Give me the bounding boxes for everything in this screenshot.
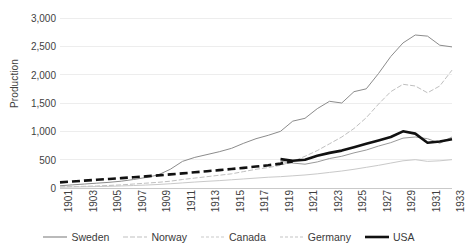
legend-item-norway[interactable]: Norway — [123, 231, 187, 243]
y-axis-tick-label: 2,000 — [18, 69, 56, 80]
legend-swatch-icon — [43, 232, 67, 242]
plot-area — [60, 18, 452, 188]
x-axis-tick-label: 1915 — [236, 190, 246, 212]
y-axis-tick-label: 500 — [18, 154, 56, 165]
x-axis-tick-label: 1931 — [432, 190, 442, 212]
y-axis-tick-label: 0 — [18, 183, 56, 194]
legend-swatch-icon — [365, 232, 389, 242]
x-axis-tick-label: 1921 — [309, 190, 319, 212]
x-axis-tick-label: 1917 — [260, 190, 270, 212]
y-axis-tick-label: 1,000 — [18, 126, 56, 137]
x-axis-tick-label: 1901 — [64, 190, 74, 212]
legend-item-usa[interactable]: USA — [365, 231, 415, 243]
y-axis-tick-labels: 05001,0001,5002,0002,5003,000 — [18, 0, 56, 250]
legend-item-canada[interactable]: Canada — [201, 231, 266, 243]
x-axis-tick-label: 1923 — [334, 190, 344, 212]
x-axis-tick-label: 1919 — [285, 190, 295, 212]
x-axis-tick-label: 1929 — [407, 190, 417, 212]
series-line-germany-early — [60, 161, 293, 182]
x-axis-tick-label: 1903 — [89, 190, 99, 212]
series-line-canada — [60, 160, 452, 187]
legend-label: USA — [393, 231, 415, 243]
x-axis-tick-label: 1907 — [138, 190, 148, 212]
x-axis-tick-label: 1927 — [383, 190, 393, 212]
legend-swatch-icon — [123, 232, 147, 242]
chart-legend: SwedenNorwayCanadaGermanyUSA — [0, 226, 458, 248]
x-axis-tick-label: 1925 — [358, 190, 368, 212]
x-axis-tick-labels: 1901190319051907190919111913191519171919… — [60, 190, 452, 224]
legend-swatch-icon — [280, 232, 304, 242]
legend-label: Canada — [229, 231, 266, 243]
series-line-usa — [281, 131, 453, 160]
legend-label: Sweden — [71, 231, 109, 243]
x-axis-tick-label: 1913 — [211, 190, 221, 212]
legend-label: Norway — [151, 231, 187, 243]
legend-item-sweden[interactable]: Sweden — [43, 231, 109, 243]
y-axis-tick-label: 2,500 — [18, 41, 56, 52]
x-axis-tick-label: 1933 — [456, 190, 466, 212]
legend-label: Germany — [308, 231, 351, 243]
y-axis-tick-label: 3,000 — [18, 13, 56, 24]
series-line-norway — [60, 70, 452, 187]
series-lines — [60, 18, 452, 188]
x-axis-tick-label: 1905 — [113, 190, 123, 212]
x-axis-tick-label: 1911 — [187, 190, 197, 212]
x-axis-tick-label: 1909 — [162, 190, 172, 212]
y-axis-tick-label: 1,500 — [18, 98, 56, 109]
legend-swatch-icon — [201, 232, 225, 242]
legend-item-germany[interactable]: Germany — [280, 231, 351, 243]
